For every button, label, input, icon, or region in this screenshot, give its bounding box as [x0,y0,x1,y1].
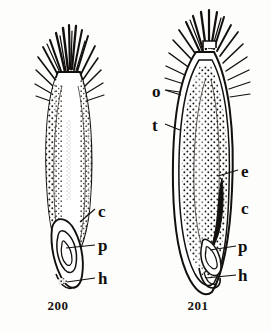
label-200-p: p [98,237,107,254]
label-200-c: c [98,203,106,220]
figure-caption-200: 200 [28,298,88,314]
label-201-o: o [152,83,161,100]
label-201-t: t [152,117,158,134]
label-201-p: p [238,238,247,255]
label-200-h: h [98,270,107,287]
label-201-h: h [238,267,247,284]
figure-200-hilum-stipple [57,278,67,284]
illustration-plate [0,0,271,333]
figure-201-apical-beak [203,41,216,48]
label-201-e: e [241,163,249,180]
label-201-c: c [241,200,249,217]
cropped-bottom-text: — — — [0,327,271,333]
figure-caption-201: 201 [168,298,228,314]
